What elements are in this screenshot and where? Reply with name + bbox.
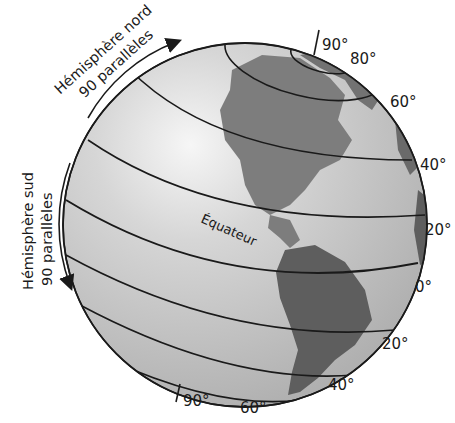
- north-pole-tick: [314, 30, 319, 55]
- label-0: 0°: [415, 278, 432, 296]
- label-90s: 90°: [183, 392, 210, 410]
- south-annotation-line1: Hémisphère sud: [20, 172, 36, 290]
- label-40s: 40°: [328, 376, 355, 394]
- label-20n: 20°: [425, 221, 452, 239]
- label-60s: 60°: [240, 399, 267, 417]
- south-annotation-line2: 90 parallèles: [39, 193, 55, 286]
- label-20s: 20°: [382, 335, 409, 353]
- label-40n: 40°: [420, 156, 447, 174]
- label-80n: 80°: [350, 50, 377, 68]
- label-90n: 90°: [322, 36, 349, 54]
- label-60n: 60°: [390, 93, 417, 111]
- globe-diagram: Hémisphère nord 90 parallèles Hémisphère…: [0, 0, 455, 423]
- south-hemisphere-annotation: Hémisphère sud 90 parallèles: [20, 172, 55, 290]
